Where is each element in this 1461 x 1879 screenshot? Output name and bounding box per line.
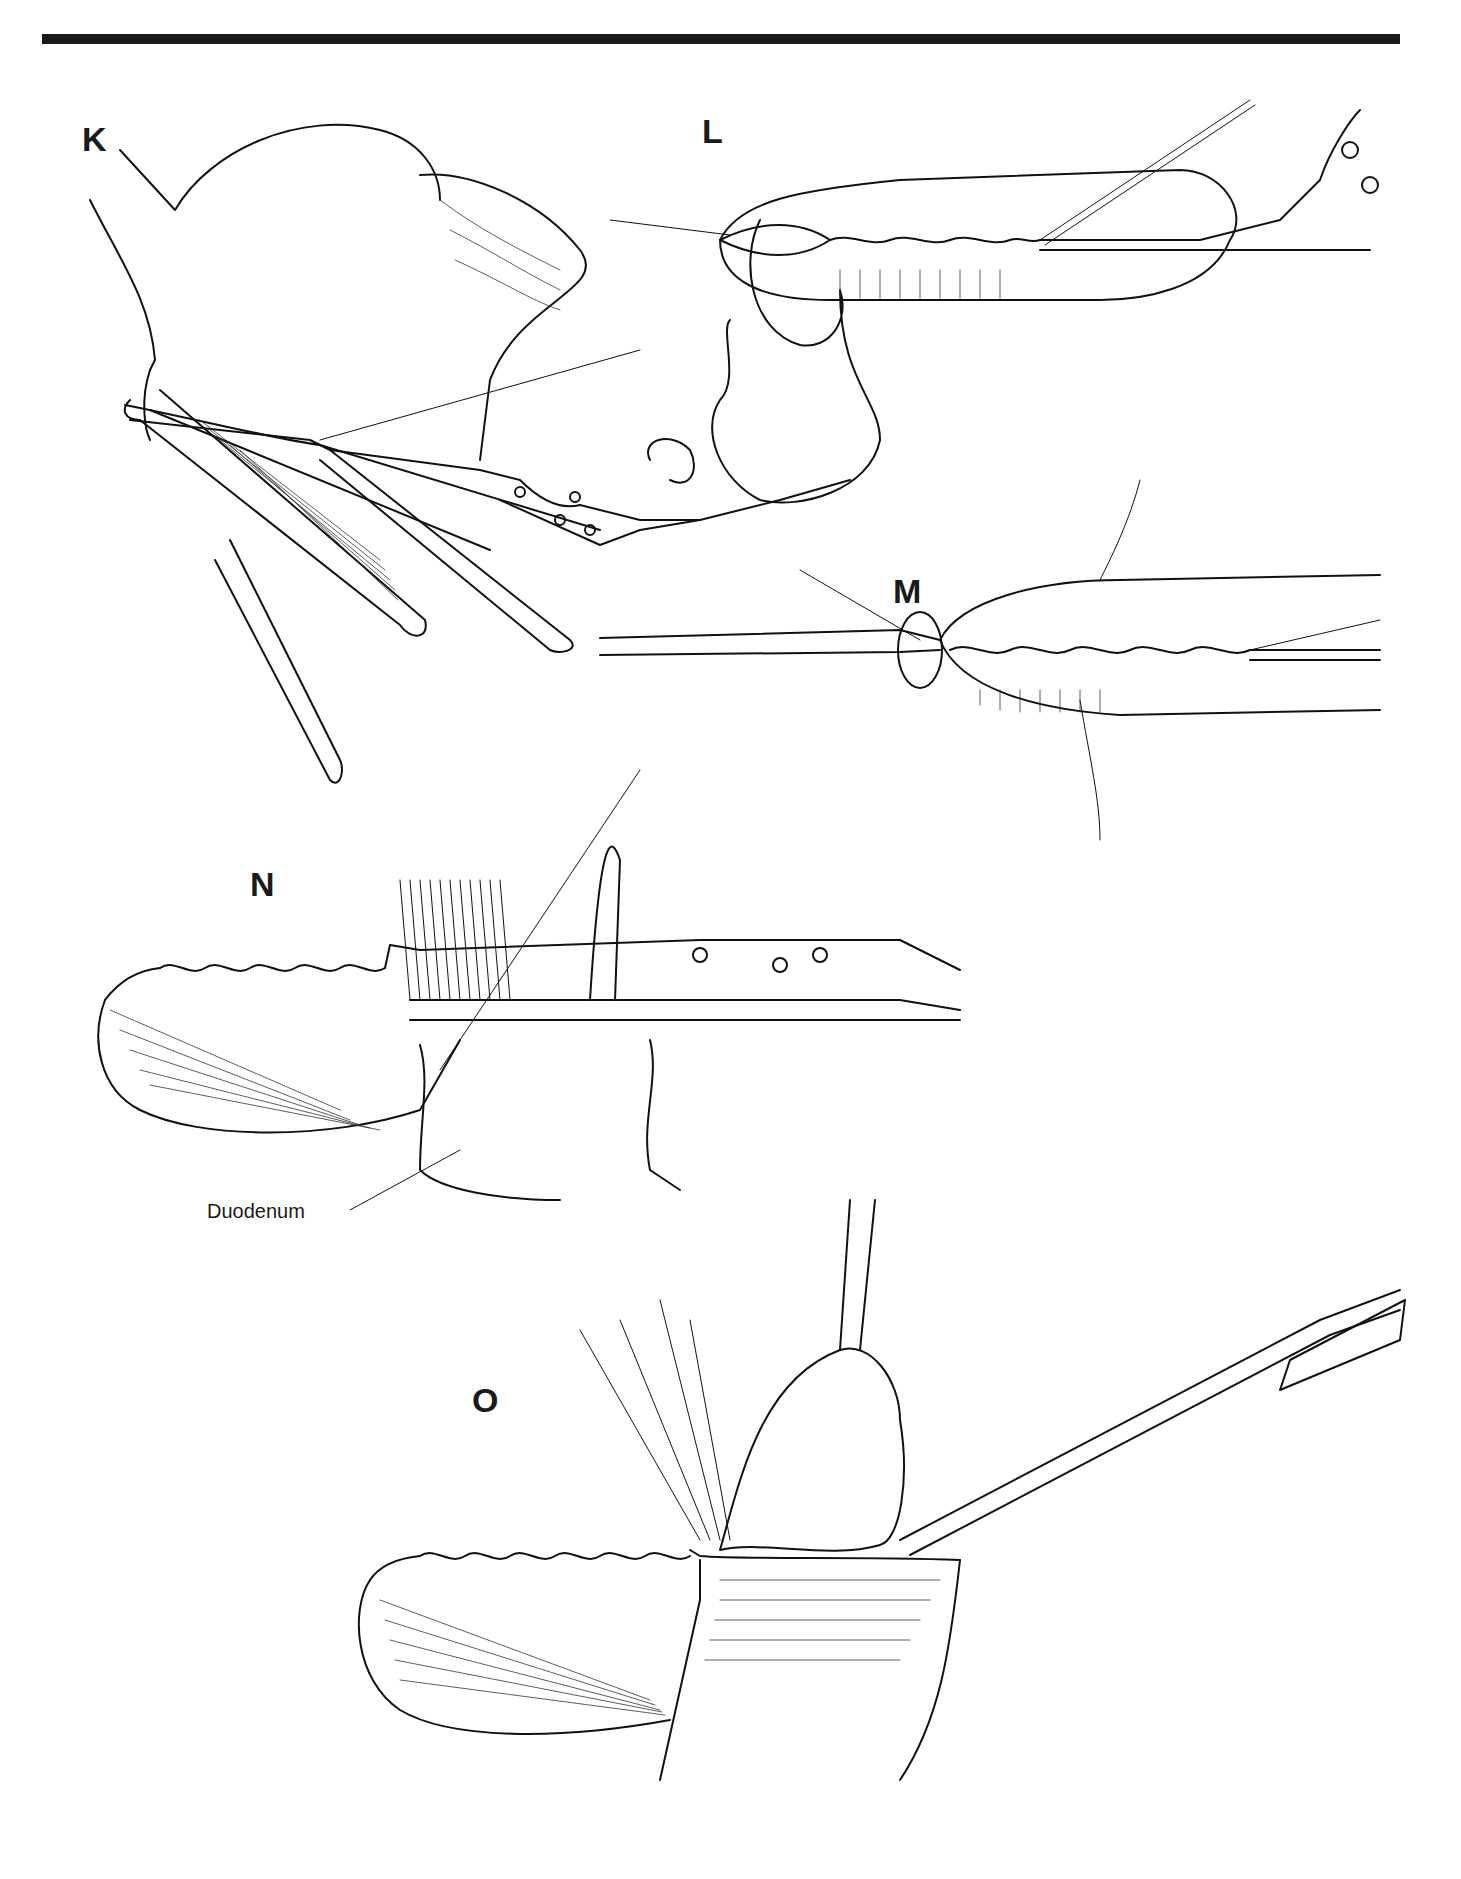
panel-l-drawing: [610, 100, 1378, 503]
panel-k-drawing: [90, 125, 850, 783]
panel-n-drawing: [98, 770, 960, 1210]
panel-o-drawing: [359, 1200, 1405, 1780]
surgical-illustration: [0, 0, 1461, 1879]
panel-m-drawing: [600, 480, 1380, 840]
